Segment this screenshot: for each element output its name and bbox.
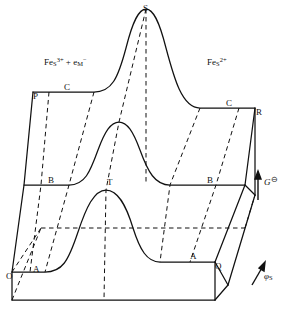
point-label-B-mid-right: B	[207, 176, 213, 185]
point-label-R: R	[256, 108, 262, 117]
energy-axis-label: G⊖	[264, 176, 278, 187]
electron-sup: −	[83, 56, 87, 63]
dash-left-well-depth-inner	[30, 92, 49, 272]
front-profile-curve	[12, 190, 215, 272]
species-right-sup: 2+	[220, 56, 227, 63]
surface-drawing	[0, 0, 288, 317]
point-label-C-back-left: C	[64, 83, 70, 92]
species-left-element: Fe	[44, 57, 53, 67]
point-label-O: O	[6, 272, 13, 281]
point-label-B-mid-left: B	[48, 176, 54, 185]
species-left-plus: +	[66, 57, 71, 67]
species-left-sup: 3+	[57, 56, 64, 63]
energy-surface-figure: FeS3+ + eM− FeS2+ G⊖ φS O P Q R S T A A …	[0, 0, 288, 317]
point-label-S: S	[143, 4, 148, 13]
species-label-left: FeS3+ + eM−	[44, 57, 87, 68]
point-label-T: T	[107, 178, 113, 187]
species-right-element: Fe	[207, 57, 216, 67]
species-label-right: FeS2+	[207, 57, 227, 68]
point-label-A-front-right: A	[190, 252, 197, 261]
point-label-P: P	[33, 92, 38, 101]
right-edge-mid-slant	[245, 185, 255, 195]
potential-axis-subscript: S	[269, 274, 273, 281]
potential-axis-label: φS	[264, 272, 273, 282]
energy-axis-superscript: ⊖	[271, 175, 278, 184]
right-edge-Q-slant	[215, 285, 228, 300]
potential-axis-arrow-head	[259, 262, 265, 271]
energy-axis-arrow-head	[255, 171, 261, 179]
point-label-C-back-right: C	[226, 99, 232, 108]
point-label-Q: Q	[215, 262, 222, 271]
point-label-A-front-left: A	[33, 265, 40, 274]
